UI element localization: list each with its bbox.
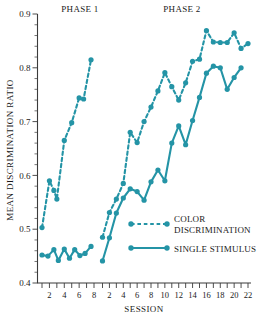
x-axis-tick-label: 18 — [216, 290, 225, 300]
x-axis-tick-label: 4 — [121, 290, 126, 300]
color-discrimination-phase2-point — [190, 59, 195, 64]
single-stimulus-phase2-point — [197, 95, 202, 100]
color-discrimination-phase2-point — [162, 70, 167, 75]
color-discrimination-phase1-point — [62, 138, 67, 143]
color-discrimination-phase2-point — [148, 104, 153, 109]
y-axis-tick-label: 0.5 — [19, 224, 31, 234]
single-stimulus-phase1-point — [72, 247, 77, 252]
legend-marker-single-stimulus — [128, 245, 133, 250]
legend-label-color-discrimination-line1: COLOR — [174, 214, 206, 224]
x-axis-tick-label: 6 — [135, 290, 139, 300]
color-discrimination-phase2-point — [183, 80, 188, 85]
y-axis-tick-label: 0.6 — [19, 171, 31, 181]
y-axis-tick-label: 0.7 — [19, 117, 31, 127]
color-discrimination-phase1-point — [47, 178, 52, 183]
single-stimulus-phase2-point — [100, 258, 105, 263]
single-stimulus-phase2-point — [135, 189, 140, 194]
color-discrimination-phase2-point — [114, 196, 119, 201]
color-discrimination-phase1-point — [54, 196, 59, 201]
color-discrimination-phase2-point — [135, 140, 140, 145]
single-stimulus-phase1-point — [67, 256, 72, 261]
single-stimulus-phase2-point — [148, 179, 153, 184]
color-discrimination-phase2-point — [204, 28, 209, 33]
x-axis-title: SESSION — [124, 304, 163, 314]
single-stimulus-phase1-point — [62, 247, 67, 252]
single-stimulus-phase1-point — [45, 254, 50, 259]
single-stimulus-phase2-point — [204, 71, 209, 76]
color-discrimination-phase1-point — [81, 96, 86, 101]
color-discrimination-phase2-point — [238, 46, 243, 51]
color-discrimination-phase2-point — [100, 235, 105, 240]
single-stimulus-phase2-point — [176, 123, 181, 128]
x-axis-tick-label: 14 — [188, 290, 197, 300]
phase-2-label: PHASE 2 — [163, 4, 200, 14]
y-axis-title: MEAN DISCRIMINATION RATIO — [5, 79, 15, 221]
single-stimulus-phase1-point — [39, 252, 44, 257]
legend-label-single-stimulus: SINGLE STIMULUS — [174, 244, 256, 254]
x-axis-tick-label: 6 — [77, 290, 81, 300]
single-stimulus-phase1-point — [88, 244, 93, 249]
single-stimulus-phase1-point — [51, 247, 56, 252]
color-discrimination-phase2-point — [128, 130, 133, 135]
legend-label-color-discrimination-line2: DISCRIMINATION — [174, 225, 251, 235]
phase-1-label: PHASE 1 — [61, 4, 98, 14]
x-axis-tick-label: 12 — [174, 290, 183, 300]
color-discrimination-phase1-line — [42, 60, 91, 228]
single-stimulus-phase2-point — [238, 65, 243, 70]
x-axis-tick-label: 4 — [62, 290, 67, 300]
color-discrimination-phase2-point — [176, 97, 181, 102]
y-axis-tick-label: 0.9 — [19, 9, 31, 19]
x-axis-tick-label: 8 — [92, 290, 96, 300]
y-axis-tick-label: 0.8 — [19, 63, 31, 73]
single-stimulus-phase1-point — [56, 258, 61, 263]
single-stimulus-phase2-point — [190, 118, 195, 123]
color-discrimination-phase2-point — [155, 88, 160, 93]
single-stimulus-phase2-point — [128, 186, 133, 191]
single-stimulus-phase2-point — [107, 235, 112, 240]
x-axis-tick-label: 22 — [244, 290, 253, 300]
x-axis-tick-label: 20 — [230, 290, 239, 300]
discrimination-ratio-line-chart: 0.40.50.60.70.80.92468246810121416182022… — [0, 0, 266, 324]
single-stimulus-phase1-point — [77, 253, 82, 258]
color-discrimination-phase2-point — [232, 30, 237, 35]
x-axis-tick-label: 8 — [149, 290, 153, 300]
color-discrimination-phase1-point — [39, 225, 44, 230]
single-stimulus-phase2-point — [232, 75, 237, 80]
color-discrimination-phase2-point — [245, 41, 250, 46]
single-stimulus-phase2-point — [155, 167, 160, 172]
color-discrimination-phase2-point — [121, 181, 126, 186]
color-discrimination-phase1-point — [88, 57, 93, 62]
color-discrimination-phase2-point — [218, 40, 223, 45]
chart-container: 0.40.50.60.70.80.92468246810121416182022… — [0, 0, 266, 324]
single-stimulus-phase2-point — [218, 65, 223, 70]
legend-marker-color-discrimination — [128, 221, 133, 226]
color-discrimination-phase2-point — [107, 210, 112, 215]
color-discrimination-phase1-point — [77, 95, 82, 100]
legend-marker-single-stimulus — [164, 245, 169, 250]
single-stimulus-phase2-point — [225, 87, 230, 92]
single-stimulus-phase2-point — [162, 178, 167, 183]
x-axis-tick-label: 2 — [47, 290, 51, 300]
color-discrimination-phase2-point — [141, 119, 146, 124]
single-stimulus-phase2-point — [121, 195, 126, 200]
single-stimulus-phase2-point — [141, 198, 146, 203]
color-discrimination-phase1-point — [69, 120, 74, 125]
x-axis-tick-label: 10 — [161, 290, 170, 300]
single-stimulus-phase1-point — [82, 251, 87, 256]
single-stimulus-phase2-point — [114, 210, 119, 215]
x-axis-tick-label: 2 — [107, 290, 111, 300]
legend-marker-color-discrimination — [164, 221, 169, 226]
color-discrimination-phase2-point — [211, 39, 216, 44]
single-stimulus-phase2-point — [183, 142, 188, 147]
color-discrimination-phase1-point — [51, 188, 56, 193]
x-axis-tick-label: 16 — [202, 290, 211, 300]
color-discrimination-phase2-point — [197, 57, 202, 62]
single-stimulus-phase2-point — [211, 64, 216, 69]
y-axis-tick-label: 0.4 — [19, 278, 31, 288]
single-stimulus-phase2-point — [169, 141, 174, 146]
color-discrimination-phase2-point — [225, 40, 230, 45]
color-discrimination-phase2-point — [169, 84, 174, 89]
